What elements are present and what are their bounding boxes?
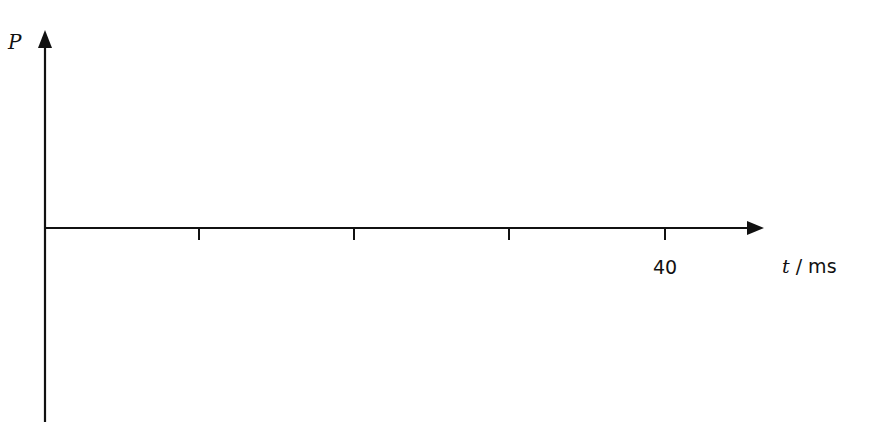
x-axis-arrow-icon [747, 221, 764, 235]
x-tick-label-40: 40 [653, 256, 677, 278]
y-axis-label: P [8, 30, 21, 54]
y-axis-arrow-icon [38, 30, 52, 48]
chart: P 40 t / ms [0, 0, 874, 434]
axes-svg [0, 0, 874, 434]
x-axis-unit: / ms [790, 255, 837, 277]
x-axis-label: t / ms [782, 255, 837, 277]
x-axis-variable: t [782, 255, 790, 277]
